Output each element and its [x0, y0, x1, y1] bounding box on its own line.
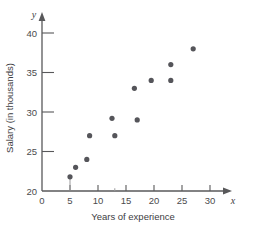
data-point-3: [87, 133, 92, 138]
y-tick-label-30: 30: [26, 107, 37, 118]
x-axis-ticks: [70, 185, 210, 191]
x-axis-tick-labels: 051015202530: [39, 195, 215, 206]
data-points-group: [67, 46, 195, 179]
y-tick-label-40: 40: [26, 28, 37, 39]
y-tick-label-35: 35: [26, 67, 37, 78]
x-tick-label-10: 10: [93, 195, 104, 206]
data-point-2: [84, 157, 89, 162]
data-point-11: [191, 46, 196, 51]
data-point-4: [109, 116, 114, 121]
scatter-plot-canvas: 051015202530 2025303540 x y Years of exp…: [0, 0, 268, 233]
data-point-10: [168, 62, 173, 67]
y-axis-variable-label: y: [31, 9, 37, 20]
data-point-6: [132, 86, 137, 91]
x-axis-title: Years of experience: [91, 211, 175, 222]
x-tick-label-25: 25: [177, 195, 188, 206]
x-tick-label-30: 30: [205, 195, 216, 206]
marker-drop-lines: [70, 179, 115, 191]
y-axis-arrowhead-icon: [39, 12, 46, 21]
data-point-7: [135, 117, 140, 122]
data-point-1: [73, 165, 78, 170]
data-point-5: [112, 133, 117, 138]
y-axis-tick-labels: 2025303540: [26, 28, 37, 197]
x-tick-label-5: 5: [67, 195, 72, 206]
x-axis-arrowhead-icon: [223, 188, 232, 195]
y-axis-title: Salary (in thousands): [4, 63, 15, 153]
data-point-9: [168, 78, 173, 83]
scatter-plot-figure: 051015202530 2025303540 x y Years of exp…: [0, 0, 268, 233]
x-tick-label-0: 0: [39, 195, 44, 206]
x-axis-variable-label: x: [230, 195, 236, 206]
x-tick-label-20: 20: [149, 195, 160, 206]
y-axis-ticks: [42, 33, 54, 152]
y-tick-label-20: 20: [26, 186, 37, 197]
y-tick-label-25: 25: [26, 146, 37, 157]
axes-group: [39, 12, 232, 194]
x-tick-label-15: 15: [121, 195, 132, 206]
data-point-8: [149, 78, 154, 83]
data-point-0: [67, 174, 72, 179]
